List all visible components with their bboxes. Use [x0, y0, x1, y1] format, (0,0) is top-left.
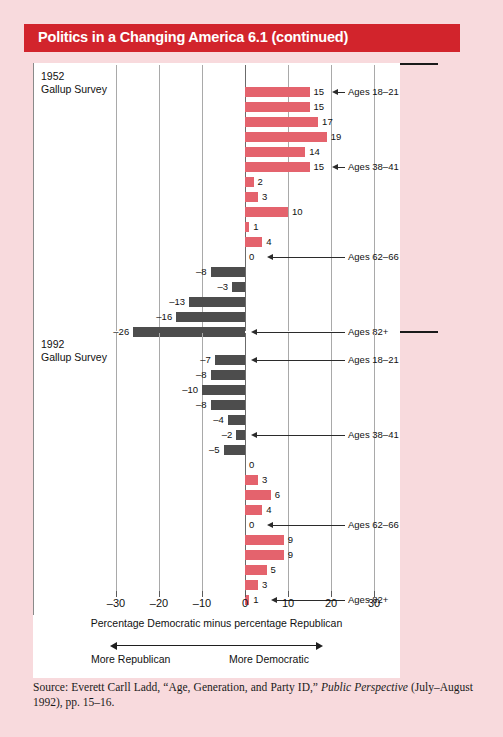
bar-value-label: –3 — [218, 280, 229, 294]
bar — [245, 207, 288, 217]
bar-value-label: –7 — [200, 353, 211, 367]
arrow-right-head — [316, 642, 323, 650]
bar-value-label: 9 — [288, 533, 293, 547]
bar-row: –8 — [33, 398, 400, 413]
bar — [245, 237, 262, 247]
bar-value-label: 1 — [253, 220, 258, 234]
bar-value-label: 14 — [309, 145, 320, 159]
bar — [245, 117, 318, 127]
direction-labels: More Republican More Democratic — [33, 653, 400, 669]
callout-line — [338, 167, 346, 168]
bar — [245, 565, 267, 575]
bar — [245, 535, 284, 545]
bar — [245, 192, 258, 202]
source-prefix: Source: Everett Carll Ladd, “Age, Genera… — [33, 681, 321, 693]
bar — [245, 475, 258, 485]
bar-row: 0Ages 62–66 — [33, 518, 400, 533]
label-more-republican: More Republican — [91, 653, 170, 665]
bar — [245, 505, 262, 515]
callout-label: Ages 18–21 — [348, 353, 399, 367]
bar — [245, 102, 310, 112]
bar-row: –8 — [33, 368, 400, 383]
bar-row: –16 — [33, 310, 400, 325]
axis-tick-label: 20 — [325, 597, 337, 609]
bar-rows: –7Ages 18–21–8–10–8–4–2Ages 38–41–503640… — [33, 333, 400, 591]
bar-value-label: 6 — [275, 488, 280, 502]
bar-row: –5 — [33, 443, 400, 458]
bar-row: 15Ages 18–21 — [33, 85, 400, 100]
bar-row: 3 — [33, 473, 400, 488]
callout-line — [273, 525, 345, 526]
bar — [236, 430, 245, 440]
bar-row: 17 — [33, 115, 400, 130]
direction-arrow — [110, 641, 323, 650]
label-more-democratic: More Democratic — [229, 653, 309, 665]
bar-value-label: –8 — [196, 398, 207, 412]
bar-value-label: 0 — [249, 518, 254, 532]
axis-tick-label: –30 — [107, 597, 125, 609]
bar-value-label: 0 — [249, 250, 254, 264]
callout-label: Ages 62–66 — [348, 518, 399, 532]
callout-label: Ages 62–66 — [348, 250, 399, 264]
bar — [232, 282, 245, 292]
bar-value-label: –16 — [156, 310, 172, 324]
bar — [245, 580, 258, 590]
bar-row: 19 — [33, 130, 400, 145]
bar-row: –10 — [33, 383, 400, 398]
bar — [245, 87, 310, 97]
bar-row: 5 — [33, 563, 400, 578]
axis-tick-label: 10 — [282, 597, 294, 609]
bar-value-label: –8 — [196, 265, 207, 279]
callout-label: Ages 18–21 — [348, 85, 399, 99]
bar-row: 15 — [33, 100, 400, 115]
bar-row: 14 — [33, 145, 400, 160]
bar-value-label: –13 — [169, 295, 185, 309]
bar — [215, 355, 245, 365]
callout-line — [273, 257, 345, 258]
bar — [211, 400, 245, 410]
bar — [211, 370, 245, 380]
bar-value-label: 3 — [262, 578, 267, 592]
bar-value-label: –5 — [209, 443, 220, 457]
bar-value-label: 15 — [314, 85, 325, 99]
bar-value-label: 4 — [266, 503, 271, 517]
bar — [245, 550, 284, 560]
bar-value-label: –4 — [213, 413, 224, 427]
bar-row: –2Ages 38–41 — [33, 428, 400, 443]
bar-row: 9 — [33, 548, 400, 563]
axis-tick-label: 30 — [368, 597, 380, 609]
bar-row: 2 — [33, 175, 400, 190]
bar-value-label: 17 — [322, 115, 333, 129]
title-banner: Politics in a Changing America 6.1 (cont… — [24, 24, 460, 52]
callout-label: Ages 38–41 — [348, 428, 399, 442]
bar-value-label: 0 — [249, 458, 254, 472]
bar-value-label: –2 — [222, 428, 233, 442]
bar-value-label: –8 — [196, 368, 207, 382]
source-citation: Source: Everett Carll Ladd, “Age, Genera… — [33, 680, 473, 710]
bar-row: 10 — [33, 205, 400, 220]
figure-page: Politics in a Changing America 6.1 (cont… — [0, 0, 503, 737]
bar — [176, 312, 245, 322]
bar-value-label: 5 — [271, 563, 276, 577]
bar-row: –3 — [33, 280, 400, 295]
bar — [211, 267, 245, 277]
callout-line — [257, 435, 345, 436]
callout-line — [257, 360, 345, 361]
callout-line — [338, 92, 346, 93]
bar-row: 0Ages 62–66 — [33, 250, 400, 265]
bar — [224, 445, 246, 455]
bar-row: 6 — [33, 488, 400, 503]
bar-value-label: 15 — [314, 100, 325, 114]
x-axis: –30–20–100102030 — [33, 591, 400, 615]
bar-value-label: 19 — [331, 130, 342, 144]
bar-row: –4 — [33, 413, 400, 428]
chart-panel-1992: 1992Gallup Survey–7Ages 18–21–8–10–8–4–2… — [33, 333, 400, 591]
bar — [189, 297, 245, 307]
bar-row: 15Ages 38–41 — [33, 160, 400, 175]
bar-row: –8 — [33, 265, 400, 280]
bar — [245, 132, 327, 142]
chart-figure: 1952Gallup Survey15Ages 18–211517191415A… — [33, 63, 400, 678]
source-italic-title: Public Perspective — [321, 681, 408, 693]
bar-row: 4 — [33, 503, 400, 518]
bar-row: 1 — [33, 220, 400, 235]
